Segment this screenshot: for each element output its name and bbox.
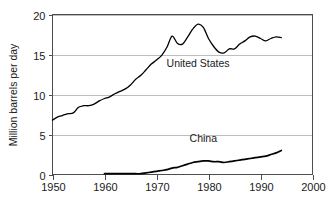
gridlines [53, 16, 313, 136]
line-chart: 05101520 195019601970198019902000 Millio… [0, 0, 335, 201]
x-axis-ticks [54, 175, 314, 180]
y-tick-label-15: 15 [33, 50, 45, 62]
x-tick-label-1960: 1960 [93, 181, 117, 193]
x-axis-tick-labels: 195019601970198019902000 [41, 181, 325, 193]
y-tick-label-20: 20 [33, 10, 45, 22]
y-axis-ticks [49, 16, 53, 176]
x-tick-label-1990: 1990 [249, 181, 273, 193]
x-tick-label-1970: 1970 [145, 181, 169, 193]
x-tick-label-1950: 1950 [41, 181, 65, 193]
series-line-united-states [53, 24, 282, 120]
y-axis-tick-labels: 05101520 [33, 10, 45, 182]
chart-container: 05101520 195019601970198019902000 Millio… [0, 0, 335, 201]
y-tick-label-10: 10 [33, 90, 45, 102]
y-tick-label-5: 5 [39, 130, 45, 142]
x-tick-label-2000: 2000 [301, 181, 325, 193]
series-annotation-china: China [190, 132, 218, 144]
series-annotation-united-states: United States [167, 57, 230, 69]
series-line-china [105, 151, 282, 174]
x-tick-label-1980: 1980 [197, 181, 221, 193]
y-axis-title: Million barrels per day [7, 43, 19, 146]
plot-frame [53, 15, 313, 175]
